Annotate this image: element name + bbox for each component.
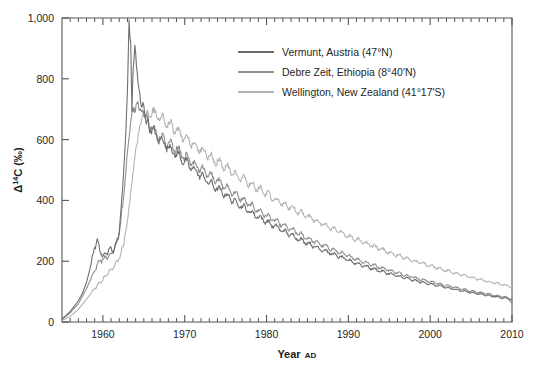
legend: Vermunt, Austria (47°N)Debre Zeit, Ethio… bbox=[238, 46, 445, 98]
y-tick-label: 200 bbox=[36, 255, 54, 267]
x-tick-label: 2000 bbox=[419, 328, 443, 340]
x-tick-label: 1980 bbox=[255, 328, 279, 340]
legend-label: Wellington, New Zealand (41°17'S) bbox=[282, 86, 445, 98]
x-tick-labels: 196019701980199020002010 bbox=[91, 328, 524, 340]
x-tick-label: 1990 bbox=[337, 328, 361, 340]
y-tick-label: 400 bbox=[36, 194, 54, 206]
legend-label: Vermunt, Austria (47°N) bbox=[282, 46, 392, 58]
y-tick-label: 1,000 bbox=[28, 12, 54, 24]
series-line bbox=[62, 20, 512, 319]
x-axis-title: YearAD bbox=[277, 348, 316, 360]
plot-frame bbox=[62, 18, 512, 322]
series-line bbox=[62, 107, 512, 320]
x-tick-label: 1960 bbox=[91, 328, 115, 340]
y-tick-label: 0 bbox=[48, 316, 54, 328]
legend-label: Debre Zeit, Ethiopia (8°40'N) bbox=[282, 66, 416, 78]
x-tick-label: 2010 bbox=[500, 328, 524, 340]
chart-figure: 19601970198019902000201002004006008001,0… bbox=[0, 0, 537, 373]
series-group bbox=[62, 20, 512, 321]
axis-ticks bbox=[62, 18, 512, 322]
x-tick-label: 1970 bbox=[173, 328, 197, 340]
delta14c-line-chart: 19601970198019902000201002004006008001,0… bbox=[0, 0, 537, 373]
y-axis-title: Δ14C (‰) bbox=[11, 147, 24, 193]
y-tick-labels: 02004006008001,000 bbox=[28, 12, 54, 328]
series-line bbox=[62, 101, 512, 319]
y-tick-label: 800 bbox=[36, 73, 54, 85]
y-tick-label: 600 bbox=[36, 134, 54, 146]
